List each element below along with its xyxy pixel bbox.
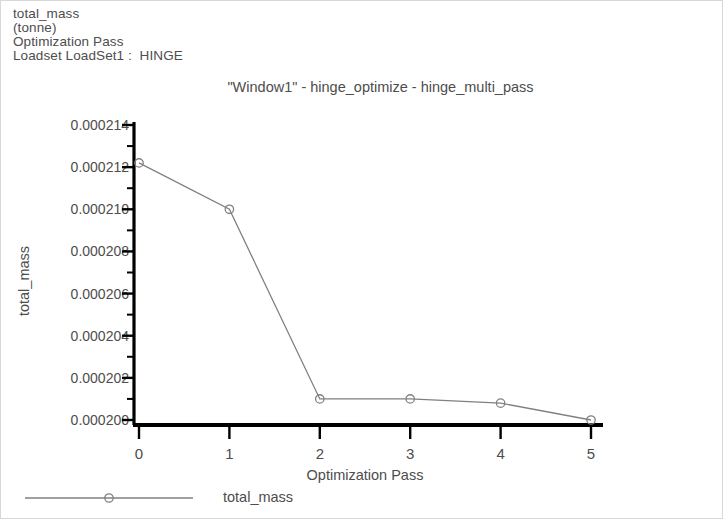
chart-legend: total_mass xyxy=(1,489,723,519)
legend-label-total-mass: total_mass xyxy=(223,489,293,505)
chart-window: total_mass (tonne) Optimization Pass Loa… xyxy=(0,0,723,519)
series-line-total_mass xyxy=(139,163,591,420)
legend-line-swatch xyxy=(23,489,195,507)
plot-area xyxy=(1,1,723,519)
